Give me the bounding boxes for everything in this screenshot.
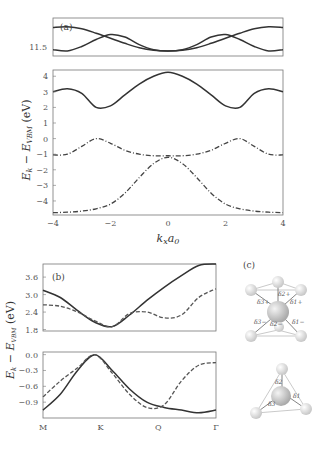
xtick-label: 4 <box>280 219 285 228</box>
panel-c: (c) δ2+ δ3+ δ1+ δ3− δ2− <box>243 260 312 419</box>
delta-label: δ1 <box>293 392 300 399</box>
ytick-label: 2.4 <box>25 308 38 317</box>
panel-a-upper: (a) 11.5 <box>29 18 283 56</box>
ytick-label: −0.6 <box>19 382 38 391</box>
panel-b-upper-frame <box>43 264 216 331</box>
ytick-label: 1 <box>43 119 48 128</box>
xtick-label: −2 <box>105 219 117 228</box>
panel-b-upper: 3.63.02.41.8 (b) <box>25 264 216 335</box>
valence-lower-curve <box>53 157 283 212</box>
ytick-label: −1 <box>36 150 48 159</box>
valence-solid-curve <box>43 355 216 413</box>
delta-label: δ3 <box>268 400 276 407</box>
xtick-label: K <box>98 423 105 432</box>
ytick-label: −2 <box>36 166 48 175</box>
xtick-label: M <box>39 423 47 432</box>
band-upper-1-curve <box>53 27 283 51</box>
delta-label: δ1− <box>292 318 304 325</box>
xtick-label: Γ <box>213 423 219 432</box>
panel-b-lower-frame <box>43 352 216 418</box>
band-upper-2-curve <box>53 34 283 51</box>
conduction-dashed-curve <box>43 289 216 327</box>
ytick-label: 4 <box>43 72 48 81</box>
xtick-label: 0 <box>165 219 170 228</box>
octahedral-cluster <box>245 276 307 342</box>
a-upper-ytick: 11.5 <box>29 43 47 52</box>
ytick-label: −0.3 <box>19 366 38 375</box>
delta-label: δ2+ <box>278 290 290 297</box>
delta-label: δ3+ <box>257 298 269 305</box>
conduction-solid-curve <box>43 264 216 327</box>
delta-label: δ2 <box>275 378 283 385</box>
ytick-label: −4 <box>36 197 48 206</box>
ytick-label: 0.0 <box>25 351 38 360</box>
panel-a-label: (a) <box>60 22 72 32</box>
delta-label: δ3− <box>254 318 266 325</box>
panel-c-label: (c) <box>243 260 255 270</box>
xtick-label: 2 <box>223 219 228 228</box>
figure: (a) 11.5 43210−1−2−3−4 −4−2024 kxa0 Ek −… <box>0 0 323 450</box>
panel-b-label: (b) <box>52 272 65 282</box>
ytick-label: 3.6 <box>25 273 38 282</box>
a-xlabel: kxa0 <box>157 232 180 246</box>
delta-label: δ1+ <box>290 298 302 305</box>
b-ylabel: Ek − EVBM (eV) <box>4 301 18 380</box>
ytick-label: 3.0 <box>25 291 38 300</box>
delta-label: δ2− <box>270 320 282 327</box>
conduction-curve <box>53 72 283 108</box>
ytick-label: 3 <box>43 88 48 97</box>
xtick-label: −4 <box>47 219 59 228</box>
ytick-label: 0 <box>43 135 48 144</box>
ytick-label: 2 <box>43 103 48 112</box>
xtick-label: Q <box>155 423 162 432</box>
a-ylabel: Ek − EVBM (eV) <box>20 99 34 181</box>
ytick-label: 1.8 <box>25 326 38 335</box>
panel-b-lower: 0.0−0.3−0.6−0.9 MKQΓ Ek − EVBM (eV) <box>4 301 219 432</box>
ytick-label: −0.9 <box>19 398 38 407</box>
panel-a-lower: 43210−1−2−3−4 −4−2024 kxa0 Ek − EVBM (eV… <box>20 70 286 246</box>
tetrahedral-cluster <box>250 363 312 419</box>
valence-top-curve <box>53 139 283 156</box>
ytick-label: −3 <box>36 181 48 190</box>
